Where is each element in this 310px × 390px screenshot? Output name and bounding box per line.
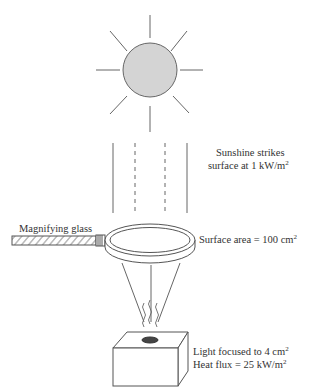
sunshine-label-text: surface at 1 kW/m <box>208 160 285 171</box>
focused-text: Light focused to 4 cm <box>193 346 285 357</box>
sunshine-label-line2: surface at 1 kW/m2 <box>208 159 289 172</box>
target-block <box>113 332 188 386</box>
magnifying-glass-handle <box>12 235 105 246</box>
surface-area-label: Surface area = 100 cm2 <box>199 233 297 246</box>
sunshine-label-sup: 2 <box>285 159 289 167</box>
diagram-canvas: Sunshine strikes surface at 1 kW/m2 Magn… <box>0 0 310 390</box>
sunshine-label: Sunshine strikes surface at 1 kW/m2 <box>208 146 289 172</box>
sunshine-label-line1: Sunshine strikes <box>208 146 289 159</box>
focused-line: Light focused to 4 cm2 <box>193 345 289 358</box>
sunlight-rays <box>113 143 187 213</box>
focused-sup: 2 <box>285 345 289 353</box>
heat-flux-sup: 2 <box>283 358 287 366</box>
focus-label: Light focused to 4 cm2 Heat flux = 25 kW… <box>193 345 289 371</box>
diagram-graphic <box>0 0 310 390</box>
focal-spot <box>142 337 158 343</box>
surface-area-sup: 2 <box>294 233 298 241</box>
heat-flux-line: Heat flux = 25 kW/m2 <box>193 358 289 371</box>
sun-icon <box>96 15 203 132</box>
magnifying-glass-label: Magnifying glass <box>19 222 92 235</box>
heat-flux-text: Heat flux = 25 kW/m <box>193 359 283 370</box>
magnifying-glass-lens <box>105 224 195 263</box>
surface-area-text: Surface area = 100 cm <box>199 234 294 245</box>
